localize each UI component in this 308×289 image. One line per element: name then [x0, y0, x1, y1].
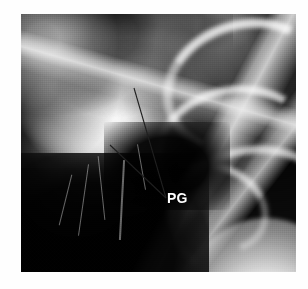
film-grain-layer [21, 14, 296, 272]
radiograph-image: PG [21, 14, 296, 272]
figure-page: PG [0, 0, 308, 289]
